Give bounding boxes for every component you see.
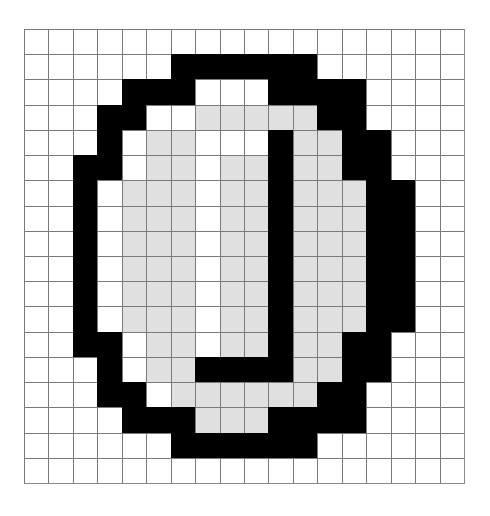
grid-cell	[171, 180, 195, 205]
grid-cell	[171, 433, 195, 458]
grid-cell	[244, 206, 268, 231]
grid-cell	[317, 433, 341, 458]
grid-cell	[244, 130, 268, 155]
grid-cell	[24, 231, 48, 256]
grid-cell	[415, 382, 439, 407]
grid-cell	[317, 105, 341, 130]
grid-cell	[342, 54, 366, 79]
grid-cell	[97, 206, 121, 231]
grid-cell	[195, 382, 219, 407]
grid-cell	[220, 180, 244, 205]
grid-cell	[24, 382, 48, 407]
grid-cell	[24, 433, 48, 458]
grid-cell	[220, 105, 244, 130]
grid-cell	[391, 29, 415, 54]
grid-cell	[415, 306, 439, 331]
grid-cell	[220, 256, 244, 281]
grid-cell	[73, 306, 97, 331]
grid-cell	[268, 206, 292, 231]
grid-cell	[415, 130, 439, 155]
grid-cell	[268, 382, 292, 407]
grid-cell	[244, 180, 268, 205]
grid-cell	[48, 433, 72, 458]
grid-cell	[220, 130, 244, 155]
grid-cell	[293, 231, 317, 256]
grid-cell	[440, 433, 464, 458]
grid-cell	[122, 180, 146, 205]
grid-cell	[195, 105, 219, 130]
grid-cell	[293, 458, 317, 483]
grid-cell	[146, 256, 170, 281]
grid-cell	[48, 256, 72, 281]
grid-cell	[293, 382, 317, 407]
grid-cell	[122, 206, 146, 231]
grid-cell	[415, 332, 439, 357]
grid-cell	[171, 54, 195, 79]
grid-cell	[293, 306, 317, 331]
grid-cell	[146, 332, 170, 357]
grid-cell	[293, 332, 317, 357]
grid-cell	[440, 105, 464, 130]
grid-cell	[97, 382, 121, 407]
grid-cell	[415, 281, 439, 306]
grid-cell	[391, 231, 415, 256]
grid-cell	[24, 130, 48, 155]
grid-cell	[342, 458, 366, 483]
grid-cell	[220, 407, 244, 432]
grid-cell	[415, 407, 439, 432]
grid-cell	[171, 281, 195, 306]
grid-cell	[391, 79, 415, 104]
grid-cell	[24, 458, 48, 483]
grid-cell	[293, 180, 317, 205]
grid-cell	[195, 54, 219, 79]
grid-cell	[366, 433, 390, 458]
grid-cell	[97, 458, 121, 483]
grid-cell	[366, 382, 390, 407]
grid-cell	[293, 130, 317, 155]
grid-cell	[48, 105, 72, 130]
grid-cell	[48, 231, 72, 256]
grid-cell	[195, 256, 219, 281]
grid-cell	[195, 231, 219, 256]
grid-cell	[48, 180, 72, 205]
grid-cell	[122, 332, 146, 357]
grid-cell	[415, 105, 439, 130]
grid-cell	[97, 357, 121, 382]
grid-cell	[391, 433, 415, 458]
grid-cell	[342, 29, 366, 54]
grid-cell	[24, 407, 48, 432]
grid-cell	[440, 407, 464, 432]
grid-cell	[317, 357, 341, 382]
grid-cell	[195, 281, 219, 306]
grid-cell	[97, 180, 121, 205]
grid-cell	[171, 407, 195, 432]
grid-cell	[146, 231, 170, 256]
grid-cell	[73, 54, 97, 79]
grid-cell	[293, 79, 317, 104]
grid-cell	[293, 105, 317, 130]
grid-cell	[171, 256, 195, 281]
grid-cell	[195, 458, 219, 483]
grid-cell	[268, 231, 292, 256]
grid-cell	[73, 130, 97, 155]
grid-cell	[97, 306, 121, 331]
grid-cell	[366, 357, 390, 382]
grid-cell	[24, 105, 48, 130]
grid-cell	[366, 155, 390, 180]
grid-cell	[440, 332, 464, 357]
grid-cell	[122, 256, 146, 281]
grid-cell	[317, 256, 341, 281]
grid-cell	[366, 130, 390, 155]
grid-cell	[317, 407, 341, 432]
grid-cell	[73, 256, 97, 281]
grid-cell	[440, 256, 464, 281]
grid-cell	[48, 357, 72, 382]
grid-cell	[48, 382, 72, 407]
grid-cell	[122, 155, 146, 180]
grid-cell	[268, 180, 292, 205]
grid-cell	[440, 130, 464, 155]
grid-cell	[440, 306, 464, 331]
grid-cell	[391, 256, 415, 281]
grid-cell	[171, 357, 195, 382]
grid-cell	[293, 433, 317, 458]
